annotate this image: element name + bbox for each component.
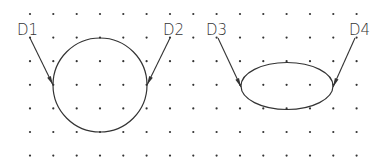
grid-dot — [216, 84, 218, 86]
grid-dot — [192, 37, 194, 39]
grid-dot — [192, 131, 194, 133]
grid-dot — [76, 13, 78, 15]
grid-dot — [52, 107, 54, 109]
grid-dot — [52, 60, 54, 62]
grid-dot — [309, 107, 311, 109]
leader-d2: D2 — [147, 21, 184, 85]
grid-dot — [169, 13, 171, 15]
grid-dot — [332, 60, 334, 62]
grid-dot — [332, 13, 334, 15]
grid-dot — [216, 60, 218, 62]
grid-dot — [262, 60, 264, 62]
arrowhead-icon — [47, 76, 53, 85]
leader-d3: D3 — [206, 21, 241, 87]
leader-d1: D1 — [17, 21, 53, 85]
ellipse-shape — [241, 63, 333, 110]
grid-dot — [122, 84, 124, 86]
dimension-label: D2 — [163, 21, 184, 39]
grid-dot — [286, 155, 288, 157]
grid-dot — [122, 155, 124, 157]
grid-dot — [29, 60, 31, 62]
grid-dot — [332, 107, 334, 109]
grid-dot — [239, 131, 241, 133]
grid-dot — [99, 13, 101, 15]
grid-dot — [52, 13, 54, 15]
grid-dot — [262, 13, 264, 15]
grid-dot — [99, 155, 101, 157]
grid-dot — [239, 155, 241, 157]
grid-dot — [122, 60, 124, 62]
grid-dot — [29, 131, 31, 133]
dimension-label: D3 — [206, 21, 227, 39]
grid-dot — [332, 131, 334, 133]
grid-dot — [309, 37, 311, 39]
grid-dot — [309, 60, 311, 62]
grid-dot — [29, 13, 31, 15]
grid-dot — [146, 107, 148, 109]
grid-dot — [122, 107, 124, 109]
grid-dot — [309, 84, 311, 86]
grid-dot — [99, 84, 101, 86]
grid-dot — [356, 60, 358, 62]
grid-dot — [169, 131, 171, 133]
grid-dot — [356, 155, 358, 157]
arrowhead-icon — [147, 76, 153, 85]
grid-dot — [356, 84, 358, 86]
grid-dot — [262, 131, 264, 133]
grid-dot — [262, 155, 264, 157]
grid-dot — [29, 107, 31, 109]
leader-lines: D1D2D3D4 — [17, 21, 370, 87]
grid-dot — [99, 60, 101, 62]
arrowhead-icon — [235, 78, 241, 87]
grid-dot — [122, 37, 124, 39]
grid-dot — [286, 37, 288, 39]
arrowhead-icon — [333, 78, 339, 87]
grid-dot — [122, 13, 124, 15]
grid-dot — [216, 131, 218, 133]
grid-dot — [169, 84, 171, 86]
grid-dot — [262, 107, 264, 109]
grid-dot — [332, 37, 334, 39]
grid-dot — [239, 13, 241, 15]
grid-dot — [76, 60, 78, 62]
grid-dot — [356, 131, 358, 133]
grid-dot — [356, 13, 358, 15]
grid-dot — [262, 84, 264, 86]
grid-dot — [76, 131, 78, 133]
grid-dot — [192, 60, 194, 62]
grid-dot — [169, 155, 171, 157]
grid-dot — [286, 131, 288, 133]
grid-dot — [99, 107, 101, 109]
grid-dot — [76, 155, 78, 157]
grid-dot — [332, 155, 334, 157]
leader-d4: D4 — [333, 21, 370, 87]
grid-dot — [239, 107, 241, 109]
grid-dot — [169, 60, 171, 62]
grid-dot — [146, 131, 148, 133]
grid-dot — [239, 37, 241, 39]
grid-dot — [192, 84, 194, 86]
grid-dot — [309, 131, 311, 133]
grid-dot — [216, 13, 218, 15]
grid-dot — [52, 131, 54, 133]
grid-dot — [309, 13, 311, 15]
grid-dot — [192, 13, 194, 15]
grid-dot — [76, 107, 78, 109]
grid-dot — [146, 155, 148, 157]
grid-dot — [29, 155, 31, 157]
grid-dot — [262, 37, 264, 39]
dimension-label: D1 — [17, 21, 38, 39]
dimension-diagram: D1D2D3D4 — [0, 0, 383, 166]
grid-dot — [146, 60, 148, 62]
grid-dot — [309, 155, 311, 157]
grid-dot — [356, 107, 358, 109]
grid-dot — [169, 107, 171, 109]
grid-dot — [29, 84, 31, 86]
grid-dot — [286, 13, 288, 15]
grid-dot — [239, 60, 241, 62]
dot-grid — [29, 13, 358, 157]
grid-dot — [76, 84, 78, 86]
grid-dot — [52, 37, 54, 39]
grid-dot — [52, 155, 54, 157]
dimension-label: D4 — [349, 21, 370, 39]
